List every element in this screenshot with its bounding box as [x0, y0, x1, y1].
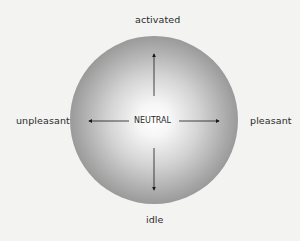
activated-label: activated — [135, 14, 180, 25]
unpleasant-label: unpleasant — [16, 115, 70, 126]
circumplex-diagram: NEUTRAL activated idle unpleasant pleasa… — [0, 0, 300, 241]
neutral-label: NEUTRAL — [134, 116, 171, 125]
idle-label: idle — [146, 214, 164, 225]
pleasant-label: pleasant — [250, 115, 292, 126]
